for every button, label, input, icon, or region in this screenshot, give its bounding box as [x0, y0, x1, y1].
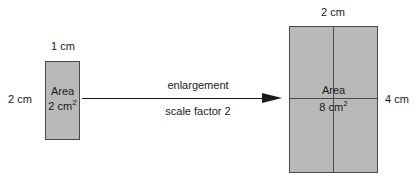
large-rect-horizontal-divider [290, 98, 377, 99]
small-area-number: 2 cm [48, 100, 72, 112]
enlargement-diagram: 1 cm 2 cm Area 2 cm2 enlargement scale f… [0, 0, 416, 184]
right-arrow-icon [262, 93, 282, 103]
large-rect-height-label: 4 cm [385, 93, 409, 106]
small-area-exponent: 2 [72, 98, 76, 107]
small-rect-width-label: 1 cm [48, 40, 78, 53]
large-rectangle [289, 26, 378, 173]
large-area-exponent: 2 [343, 99, 347, 108]
large-rect-vertical-divider [333, 27, 334, 172]
small-rect-height-label: 2 cm [8, 93, 32, 106]
small-rect-area-label: Area [45, 85, 80, 98]
transform-label-scale-factor: scale factor 2 [138, 105, 258, 118]
large-rect-area-label: Area [289, 84, 378, 97]
large-area-number: 8 cm [319, 101, 343, 113]
large-rect-width-label: 2 cm [303, 6, 363, 19]
large-rect-area-value: 8 cm2 [289, 101, 378, 114]
small-rect-area-value: 2 cm2 [45, 100, 80, 113]
arrow-shaft [82, 98, 272, 99]
